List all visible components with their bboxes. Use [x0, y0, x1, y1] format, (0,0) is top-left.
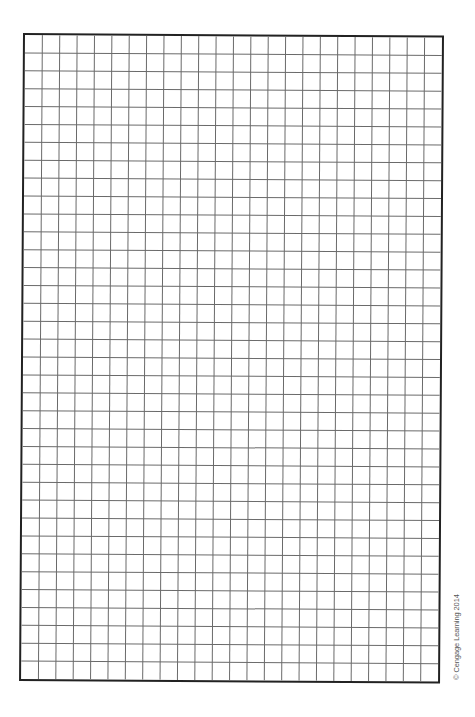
- grid-lines: [21, 35, 442, 682]
- copyright-credit: © Cengage Learning 2014: [452, 594, 461, 680]
- graph-paper-grid: [19, 33, 444, 684]
